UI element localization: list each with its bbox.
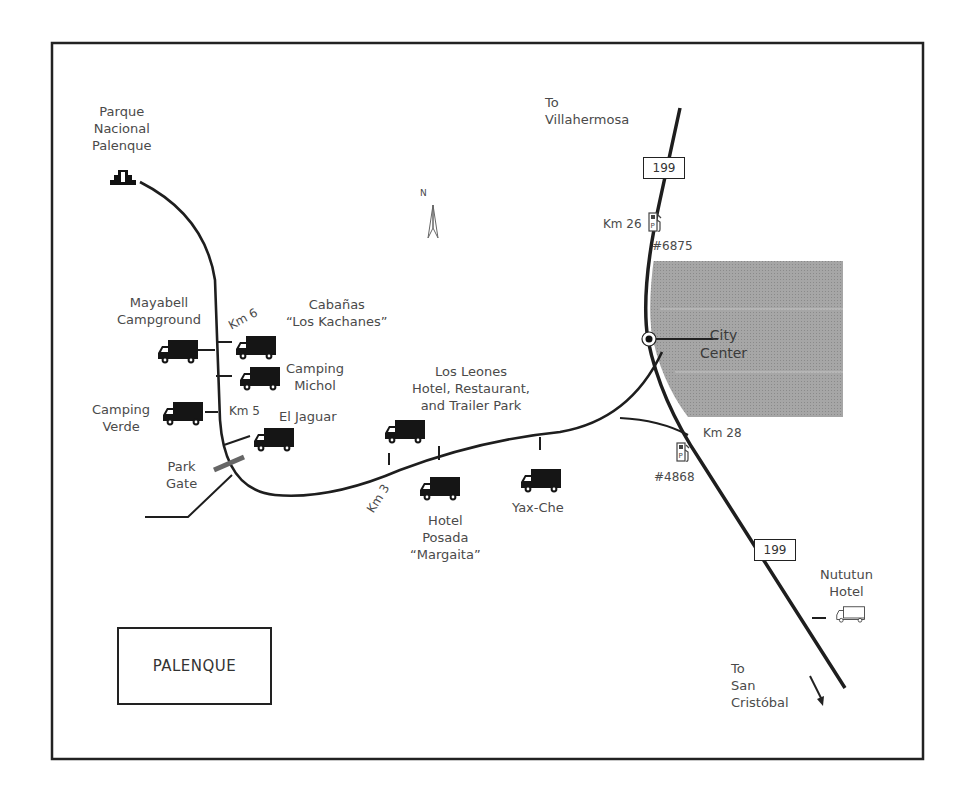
label-los-leones: Los Leones Hotel, Restaurant, and Traile… [412,363,530,414]
label-line: Campground [117,311,201,328]
rv-icon-yaxche [521,469,561,492]
label-hotel-posada-margaita: Hotel Posada “Margaita” [410,512,481,563]
label-line: Villahermosa [545,111,629,128]
city-center-label: City Center [700,326,747,362]
rv-icon-posada [420,477,460,500]
label-line: Parque [92,103,152,120]
gas-station-icon-north [649,213,661,231]
label-line: To [545,94,629,111]
label-line: Hotel, Restaurant, [412,380,530,397]
north-arrow-icon [428,205,438,238]
label-line: Camping [92,401,150,418]
label-line: City [700,326,747,344]
rv-icon-nututun [837,607,865,622]
label-to-san-cristobal: To San Cristóbal [731,660,789,711]
label-line: Nacional [92,120,152,137]
label-to-villahermosa: To Villahermosa [545,94,629,128]
label-line: Camping [286,360,344,377]
park-road [140,182,662,496]
label-line: Hotel [410,512,481,529]
km-28-label: Km 28 [703,425,742,442]
label-line: Palenque [92,137,152,154]
label-parque-nacional: Parque Nacional Palenque [92,103,152,154]
label-line: Posada [410,529,481,546]
km-5-label: Km 5 [229,403,260,420]
rv-icon-cabanas [236,336,276,359]
label-line: El Jaguar [279,408,337,425]
map-title-box: PALENQUE [117,627,272,705]
label-line: Gate [166,475,197,492]
label-line: Verde [92,418,150,435]
rv-icon-mayabell [158,340,198,363]
label-line: and Trailer Park [412,397,530,414]
km-26-label: Km 26 [603,216,642,233]
label-line: San [731,677,789,694]
label-line: Center [700,344,747,362]
north-label: N [420,185,427,202]
rv-icon-verde [163,402,203,425]
label-line: Hotel [820,583,873,600]
label-line: To [731,660,789,677]
pyramid-icon [110,170,136,185]
label-park-gate: Park Gate [166,458,197,492]
label-line: Los Leones [412,363,530,380]
label-line: “Los Kachanes” [286,313,388,330]
label-line: Michol [286,377,344,394]
label-el-jaguar: El Jaguar [279,408,337,425]
highway-shield-199-north: 199 [643,157,685,179]
label-line: Nututun [820,566,873,583]
label-camping-michol: Camping Michol [286,360,344,394]
label-cabanas-los-kachanes: Cabañas “Los Kachanes” [286,296,388,330]
south-arrow-icon [810,676,824,706]
label-yax-che: Yax-Che [512,499,564,516]
rv-icon-leones [385,420,425,443]
label-line: Park [166,458,197,475]
label-mayabell: Mayabell Campground [117,294,201,328]
rv-icon-jaguar [254,428,294,451]
map-title: PALENQUE [153,657,237,675]
label-nututun-hotel: Nututun Hotel [820,566,873,600]
label-line: Mayabell [117,294,201,311]
label-line: Cabañas [286,296,388,313]
rv-icon-michol [240,367,280,390]
label-line: Cristóbal [731,694,789,711]
label-camping-verde: Camping Verde [92,401,150,435]
label-line: “Margaita” [410,546,481,563]
gas-station-north-label: #6875 [652,238,693,255]
highway-shield-199-south: 199 [754,539,796,561]
gas-station-south-label: #4868 [654,469,695,486]
label-line: Yax-Che [512,499,564,516]
gas-station-icon-south [677,443,689,461]
